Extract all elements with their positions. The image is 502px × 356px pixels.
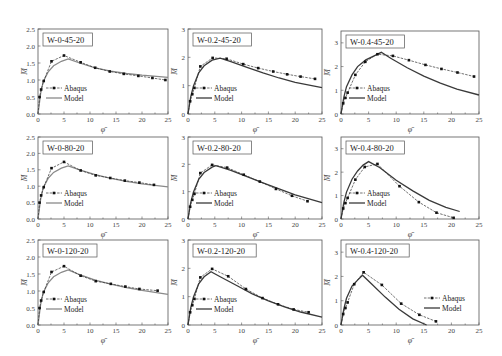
legend-abaqus-marker (203, 298, 206, 301)
x-tick-label: 20 (292, 221, 300, 229)
abaqus-marker (408, 59, 411, 62)
abaqus-marker (193, 193, 196, 196)
abaqus-marker (94, 174, 97, 177)
subplot-title: W-0.4-45-20 (350, 37, 394, 47)
abaqus-marker (354, 74, 357, 77)
legend: AbaqusModel (196, 84, 237, 103)
legend: AbaqusModel (349, 84, 390, 103)
x-tick-label: 5 (213, 221, 217, 229)
y-tick-label: 1 (335, 192, 339, 200)
model-curve (188, 272, 322, 325)
legend-abaqus-label: Abaqus (64, 295, 87, 304)
x-tick-label: 0 (186, 327, 190, 335)
abaqus-marker (344, 97, 347, 100)
abaqus-marker (418, 201, 421, 204)
x-tick-label: 25 (476, 221, 484, 229)
x-tick-label: 0 (339, 221, 343, 229)
legend-abaqus-marker (53, 298, 56, 301)
legend-model-label: Model (367, 94, 387, 103)
abaqus-marker (344, 202, 347, 205)
abaqus-marker (123, 73, 126, 76)
abaqus-marker (138, 181, 141, 184)
abaqus-marker (211, 164, 214, 167)
x-tick-label: 0 (36, 221, 40, 229)
x-tick-label: 10 (238, 327, 246, 335)
y-tick-label: 1.0 (26, 77, 35, 85)
x-axis-label: φ̄ (101, 336, 107, 345)
x-tick-label: 20 (448, 116, 456, 124)
abaqus-marker (211, 57, 214, 60)
y-tick-label: 2.0 (26, 43, 35, 51)
subplot-w-0.4-80-20: 05101520250123φ̄M̄W-0.4-80-20AbaqusModel (323, 137, 483, 239)
abaqus-marker (50, 167, 53, 170)
abaqus-marker (452, 217, 455, 220)
y-tick-label: 1 (182, 293, 186, 301)
subplot-title: W-0.2-45-20 (197, 35, 241, 45)
legend-abaqus-label: Abaqus (214, 295, 237, 304)
abaqus-marker (164, 79, 167, 82)
y-tick-label: 2.5 (26, 237, 35, 245)
model-curve (38, 166, 168, 219)
abaqus-marker (191, 199, 194, 202)
abaqus-marker (398, 185, 401, 188)
y-tick-label: 0.0 (26, 111, 35, 119)
x-tick-label: 25 (476, 116, 484, 124)
y-tick-label: 3 (335, 145, 339, 153)
y-tick-label: 3 (182, 134, 186, 142)
abaqus-marker (381, 284, 384, 287)
y-tick-label: 0 (335, 216, 339, 224)
y-tick-label: 1 (182, 82, 186, 90)
y-axis-label: M̄ (20, 67, 29, 76)
abaqus-marker (440, 68, 443, 71)
y-tick-label: 2 (182, 265, 186, 273)
y-tick-label: 1.5 (26, 166, 35, 174)
abaqus-marker (50, 271, 53, 274)
legend-abaqus-label: Abaqus (367, 84, 390, 93)
x-tick-label: 5 (367, 116, 371, 124)
legend-model-label: Model (367, 199, 387, 208)
abaqus-curve (341, 272, 436, 325)
legend-model-label: Model (64, 94, 84, 103)
y-tick-label: 1.5 (26, 60, 35, 68)
abaqus-marker (199, 65, 202, 68)
abaqus-marker (245, 288, 248, 291)
subplot-w-0.2-45-20: 05101520250123φ̄M̄W-0.2-45-20AbaqusModel (170, 26, 326, 135)
abaqus-marker (299, 75, 302, 78)
model-curve (341, 52, 479, 114)
x-tick-label: 15 (113, 116, 121, 124)
abaqus-marker (94, 280, 97, 283)
abaqus-marker (277, 303, 280, 306)
abaqus-marker (292, 308, 295, 311)
model-curve (341, 162, 460, 219)
subplot-title: W-0.2-120-20 (197, 246, 245, 256)
abaqus-marker (261, 297, 264, 300)
abaqus-marker (211, 268, 214, 271)
legend-abaqus-marker (431, 297, 434, 300)
x-tick-label: 25 (476, 327, 484, 335)
y-tick-label: 3 (182, 26, 186, 34)
y-tick-label: 1 (335, 297, 339, 305)
y-tick-label: 2 (335, 273, 339, 281)
y-tick-label: 2.0 (26, 150, 35, 158)
abaqus-curve (188, 58, 315, 114)
abaqus-marker (40, 194, 43, 197)
abaqus-marker (242, 173, 245, 176)
abaqus-marker (191, 93, 194, 96)
abaqus-marker (124, 285, 127, 288)
legend-abaqus-label: Abaqus (214, 84, 237, 93)
abaqus-marker (199, 276, 202, 279)
abaqus-marker (362, 271, 365, 274)
legend-abaqus-marker (356, 87, 359, 90)
abaqus-marker (226, 166, 229, 169)
y-tick-label: 2 (182, 161, 186, 169)
abaqus-marker (424, 64, 427, 67)
x-tick-label: 20 (139, 116, 147, 124)
y-tick-label: 0.0 (26, 216, 35, 224)
y-tick-label: 3 (335, 249, 339, 257)
x-tick-label: 10 (87, 116, 95, 124)
legend-model-label: Model (214, 305, 234, 314)
x-tick-label: 25 (165, 327, 173, 335)
abaqus-marker (435, 320, 438, 323)
y-axis-label: M̄ (20, 278, 29, 287)
abaqus-marker (153, 184, 156, 187)
